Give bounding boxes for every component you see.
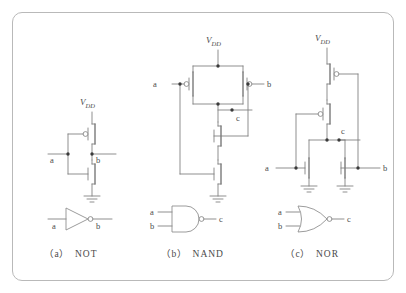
nor-symbol-input-label-a: a	[278, 207, 282, 217]
nor-symbol-output-label-c: c	[347, 214, 351, 224]
nor-caption: （c） NOR	[285, 246, 339, 260]
nor-symbol-input-label-b: b	[278, 221, 282, 231]
nor-gate-symbol	[0, 0, 406, 293]
figure-canvas: VDD a b a b （a） NOT	[0, 0, 406, 293]
